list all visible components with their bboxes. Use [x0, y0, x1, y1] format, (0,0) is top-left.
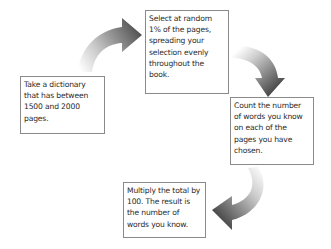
step-4-text: Multiply the total by 100. The result is… [127, 186, 200, 229]
arrow-step3-to-step4 [212, 167, 264, 230]
step-4-box: Multiply the total by 100. The result is… [123, 182, 206, 238]
arrow-step2-to-step3 [232, 46, 285, 97]
arrow-step1-to-step2 [78, 18, 142, 72]
step-2-box: Select at random 1% of the pages, spread… [145, 10, 229, 94]
step-1-text: Take a dictionary that has between 1500 … [24, 80, 88, 123]
step-3-box: Count the number of words you know on ea… [230, 97, 314, 165]
step-3-text: Count the number of words you know on ea… [234, 101, 303, 155]
step-1-box: Take a dictionary that has between 1500 … [20, 76, 105, 134]
step-2-text: Select at random 1% of the pages, spread… [149, 14, 212, 79]
